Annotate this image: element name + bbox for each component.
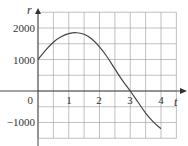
line-chart: r t 2000 1000 0 −1000 1 2 3 4 — [0, 0, 188, 146]
x-tick-3: 3 — [127, 94, 133, 106]
y-tick-neg1000: −1000 — [7, 116, 36, 128]
grid — [38, 12, 176, 138]
x-tick-4: 4 — [158, 94, 164, 106]
y-tick-2000: 2000 — [13, 22, 36, 34]
x-axis-arrow-icon — [180, 88, 187, 94]
y-axis-arrow-icon — [35, 8, 41, 14]
x-tick-1: 1 — [66, 94, 72, 106]
x-axis-label: t — [174, 95, 178, 109]
origin-label: 0 — [28, 94, 34, 106]
y-axis-label: r — [27, 3, 32, 17]
y-tick-1000: 1000 — [13, 54, 36, 66]
x-tick-2: 2 — [96, 94, 102, 106]
